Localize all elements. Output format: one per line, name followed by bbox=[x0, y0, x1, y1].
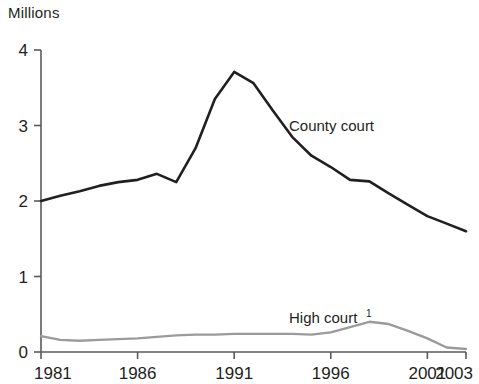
y-axis-tick-label: 4 bbox=[19, 41, 28, 60]
high-court-footnote-marker: 1 bbox=[366, 308, 372, 319]
y-axis-group: 01234 bbox=[19, 41, 41, 362]
y-axis-tick-label: 2 bbox=[19, 192, 28, 211]
county-court-line bbox=[41, 72, 466, 231]
y-axis-tick-labels: 01234 bbox=[19, 41, 28, 362]
x-axis-tick-label: 1991 bbox=[215, 364, 253, 383]
line-chart: Millions 01234 198119861991199620012003 … bbox=[0, 0, 479, 384]
x-axis-tick-label: 2003 bbox=[435, 364, 473, 383]
y-axis-tick-label: 3 bbox=[19, 117, 28, 136]
x-axis-tick-label: 1981 bbox=[34, 364, 72, 383]
chart-plot-area: 01234 198119861991199620012003 County co… bbox=[0, 0, 479, 384]
x-axis-tick-label: 1996 bbox=[312, 364, 350, 383]
x-axis-tick-labels: 198119861991199620012003 bbox=[34, 364, 473, 383]
high-court-label: High court bbox=[289, 309, 358, 326]
x-axis-ticks bbox=[41, 352, 466, 359]
y-axis-tick-label: 0 bbox=[19, 343, 28, 362]
high-court-line bbox=[41, 322, 466, 349]
county-court-label: County court bbox=[289, 117, 375, 134]
x-axis-tick-label: 1986 bbox=[119, 364, 157, 383]
series-annotations: County court High court 1 bbox=[289, 117, 375, 326]
y-axis-tick-label: 1 bbox=[19, 268, 28, 287]
x-axis-group: 198119861991199620012003 bbox=[34, 352, 473, 383]
series-lines bbox=[41, 72, 466, 349]
